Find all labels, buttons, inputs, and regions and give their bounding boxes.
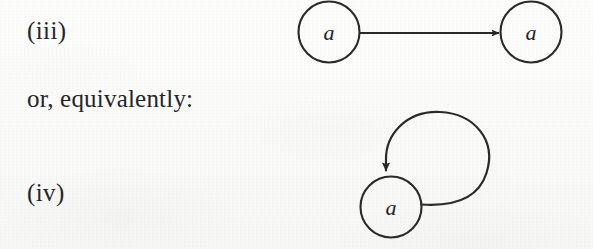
figure-iii-group <box>299 2 562 63</box>
figure-label-iii: (iii) <box>27 18 67 43</box>
node-label-iii-left: a <box>324 22 335 44</box>
edge-self-loop-iv <box>386 112 489 205</box>
node-label-iv-self: a <box>386 197 397 219</box>
node-label-iii-right: a <box>526 22 537 44</box>
paper-grain-texture <box>0 0 593 249</box>
diagram-canvas <box>0 0 593 249</box>
figure-iv-group <box>361 112 490 238</box>
figure-label-iv: (iv) <box>27 180 65 205</box>
page-canvas: (iii) or, equivalently: (iv) a a a <box>0 0 593 249</box>
equivalence-note-text: or, equivalently: <box>27 86 193 111</box>
